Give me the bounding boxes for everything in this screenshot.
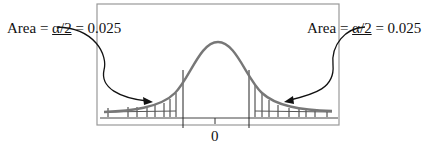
- right-label-alpha: α/2: [352, 20, 372, 36]
- right-area-label: Area = α/2 = 0.025: [307, 20, 421, 37]
- frame: [97, 4, 339, 125]
- left-label-alpha: α/2: [52, 20, 72, 36]
- left-arrow: [57, 27, 147, 101]
- right-label-suffix: = 0.025: [372, 20, 422, 36]
- bell-curve: [104, 42, 332, 112]
- left-label-suffix: = 0.025: [72, 20, 122, 36]
- zero-label: 0: [211, 128, 219, 145]
- left-area-label: Area = α/2 = 0.025: [7, 20, 121, 37]
- right-label-prefix: Area =: [307, 20, 352, 36]
- left-arrowhead-icon: [143, 97, 153, 105]
- right-arrowhead-icon: [284, 96, 294, 104]
- right-arrow: [290, 27, 365, 100]
- left-tail-hatch: [108, 93, 176, 117]
- left-label-prefix: Area =: [7, 20, 52, 36]
